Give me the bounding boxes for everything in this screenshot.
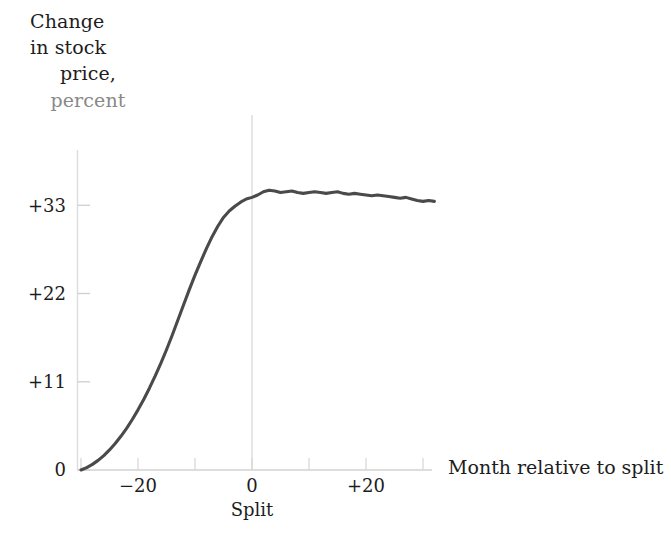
x-axis-ticks bbox=[81, 458, 423, 470]
y-tick-label-11: +11 bbox=[8, 373, 66, 391]
y-axis-label-line-4: percent bbox=[28, 87, 148, 113]
y-axis-label-line-3: price, bbox=[28, 60, 148, 86]
y-tick-label-22: +22 bbox=[8, 285, 66, 303]
x-axis-label: Month relative to split bbox=[448, 458, 663, 477]
y-axis-label-line-2: in stock bbox=[30, 34, 148, 60]
y-tick-label-0: 0 bbox=[8, 461, 66, 479]
x-tick-label-plus20: +20 bbox=[331, 477, 401, 495]
split-marker-label: Split bbox=[207, 501, 297, 519]
y-axis-ticks bbox=[78, 205, 91, 470]
x-tick-label-minus20: −20 bbox=[103, 477, 173, 495]
y-axis-label: Change in stock price, percent bbox=[28, 8, 148, 113]
chart-figure: Change in stock price, percent bbox=[0, 0, 671, 534]
y-tick-label-33: +33 bbox=[8, 197, 66, 215]
x-tick-label-0: 0 bbox=[217, 477, 287, 495]
stock-price-curve bbox=[81, 190, 434, 470]
y-axis-label-line-1: Change bbox=[30, 8, 148, 34]
